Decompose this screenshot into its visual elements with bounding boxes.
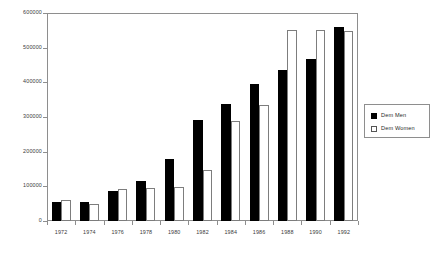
bar-dem-women-1974 <box>89 204 99 221</box>
x-axis-tick-label: 1984 <box>224 230 237 235</box>
x-axis-tick-mark <box>132 221 133 225</box>
x-axis-tick-mark <box>47 221 48 225</box>
x-axis-tick-label: 1978 <box>140 230 153 235</box>
y-axis-tick-label: 400000 <box>0 79 42 84</box>
y-axis-tick-label: 300000 <box>0 114 42 119</box>
bar-dem-women-1972 <box>61 200 71 221</box>
bar-dem-men-1974 <box>80 202 90 221</box>
bar-dem-women-1978 <box>146 188 156 221</box>
bar-dem-women-1986 <box>259 105 269 221</box>
legend-item-dem-women: Dem Women <box>371 124 415 133</box>
bar-dem-women-1976 <box>118 189 128 221</box>
x-axis-tick-mark <box>217 221 218 225</box>
x-axis-tick-label: 1974 <box>83 230 96 235</box>
x-axis-tick-label: 1982 <box>196 230 209 235</box>
y-axis-tick-label: 200000 <box>0 149 42 154</box>
bar-dem-men-1992 <box>334 27 344 221</box>
bar-dem-men-1978 <box>136 181 146 221</box>
bar-dem-women-1982 <box>203 170 213 221</box>
bar-dem-men-1980 <box>165 159 175 221</box>
x-axis-tick-mark <box>301 221 302 225</box>
outlined-square-icon <box>371 126 377 132</box>
bar-dem-men-1986 <box>250 84 260 221</box>
bar-dem-men-1972 <box>52 202 62 221</box>
x-axis-tick-label: 1990 <box>309 230 322 235</box>
x-axis-tick-mark <box>75 221 76 225</box>
bar-dem-men-1982 <box>193 120 203 221</box>
chart-legend: Dem Men Dem Women <box>364 104 430 138</box>
y-axis-tick-label: 600000 <box>0 10 42 15</box>
bar-dem-men-1990 <box>306 59 316 221</box>
bar-dem-women-1980 <box>174 187 184 221</box>
legend-item-dem-men: Dem Men <box>371 111 406 120</box>
bars-layer <box>47 13 358 221</box>
bar-dem-men-1976 <box>108 191 118 222</box>
bar-dem-men-1984 <box>221 104 231 221</box>
filled-square-icon <box>371 113 377 119</box>
x-axis-tick-mark <box>358 221 359 225</box>
y-axis: 6000005000004000003000002000001000000 <box>0 0 42 257</box>
x-axis-tick-mark <box>273 221 274 225</box>
x-axis-tick-label: 1988 <box>281 230 294 235</box>
x-axis-tick-label: 1992 <box>338 230 351 235</box>
x-axis-tick-label: 1980 <box>168 230 181 235</box>
bar-dem-women-1992 <box>344 31 354 221</box>
bar-dem-women-1990 <box>316 30 326 221</box>
x-axis-tick-label: 1972 <box>55 230 68 235</box>
y-axis-tick-label: 0 <box>0 218 42 223</box>
y-axis-tick-label: 500000 <box>0 45 42 50</box>
y-axis-tick-label: 100000 <box>0 183 42 188</box>
legend-item-label: Dem Women <box>381 126 415 132</box>
legend-item-label: Dem Men <box>381 113 406 119</box>
bar-dem-women-1988 <box>287 30 297 221</box>
x-axis-tick-mark <box>188 221 189 225</box>
x-axis-tick-mark <box>160 221 161 225</box>
bar-dem-women-1984 <box>231 121 241 221</box>
x-axis-tick-label: 1976 <box>111 230 124 235</box>
bar-chart: 6000005000004000003000002000001000000 19… <box>0 0 434 257</box>
x-axis-tick-mark <box>245 221 246 225</box>
x-axis-tick-label: 1986 <box>253 230 266 235</box>
x-axis-tick-mark <box>330 221 331 225</box>
x-axis-tick-mark <box>104 221 105 225</box>
bar-dem-men-1988 <box>278 70 288 221</box>
